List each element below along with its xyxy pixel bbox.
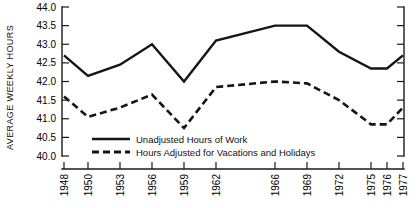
x-axis-tick-marks: [64, 162, 403, 169]
y-axis-tick-label: 41.0: [37, 113, 57, 124]
x-axis-tick-label: 1969: [302, 174, 313, 197]
y-axis-tick-label: 43.5: [37, 20, 57, 31]
y-axis-tick-label: 41.5: [37, 95, 57, 106]
x-axis-tick-label: 1948: [59, 174, 70, 197]
x-axis-tick-label: 1972: [334, 174, 345, 197]
x-axis-tick-label: 1977: [398, 174, 409, 197]
y-axis-tick-label: 42.5: [37, 57, 57, 68]
x-axis-tick-label: 1950: [83, 174, 94, 197]
legend-label-adjusted: Hours Adjusted for Vacations and Holiday…: [136, 147, 316, 158]
chart-container: AVERAGE WEEKLY HOURS 44.043.543.042.542.…: [0, 0, 419, 208]
x-axis-tick-label: 1956: [147, 174, 158, 197]
x-axis-tick-label: 1966: [270, 174, 281, 197]
legend-label-unadjusted: Unadjusted Hours of Work: [136, 134, 247, 145]
series-line-unadjusted-hours: [64, 26, 403, 82]
x-axis-tick-label: 1976: [382, 174, 393, 197]
y-axis-tick-label: 42.0: [37, 76, 57, 87]
y-axis-tick-label: 43.0: [37, 39, 57, 50]
x-axis-tick-label: 1962: [211, 174, 222, 197]
y-axis-title: AVERAGE WEEKLY HOURS: [5, 25, 15, 150]
y-axis-tick-label: 40.0: [37, 151, 57, 162]
x-axis-tick-label: 1975: [366, 174, 377, 197]
y-axis-tick-label: 44.0: [37, 2, 57, 13]
y-axis-tick-labels: 44.043.543.042.542.041.541.040.540.0: [37, 2, 57, 162]
x-axis-tick-label: 1959: [179, 174, 190, 197]
y-axis-tick-label: 40.5: [37, 132, 57, 143]
y-axis-title-text: AVERAGE WEEKLY HOURS: [5, 25, 15, 150]
series-line-adjusted-hours: [64, 82, 403, 129]
x-axis-tick-labels: 1948195019531956195919621966196919721975…: [59, 174, 409, 197]
x-axis-tick-label: 1953: [115, 174, 126, 197]
legend: Unadjusted Hours of Work Hours Adjusted …: [92, 134, 316, 158]
line-chart: AVERAGE WEEKLY HOURS 44.043.543.042.542.…: [0, 0, 419, 208]
